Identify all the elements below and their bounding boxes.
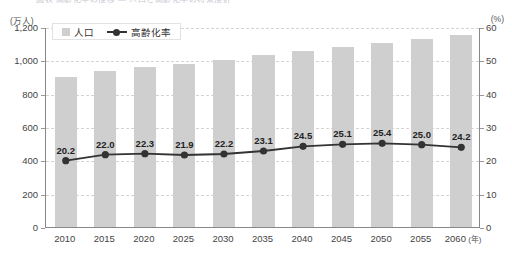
right-axis-tick-label: 50 [486, 55, 508, 66]
chart-page: 図表 高齢化率の推移 — 人口と高齢化率の将来推計 (万人) (%) 20.22… [0, 0, 512, 255]
x-axis-tick-label: 2025 [173, 233, 194, 244]
data-label: 22.0 [96, 139, 115, 150]
left-axis-tick-label: 600 [2, 122, 38, 133]
x-axis-unit: (年) [466, 235, 482, 244]
top-caption-text: 図表 高齢化率の推移 — 人口と高齢化率の将来推計 [36, 0, 231, 4]
right-axis-tick-label: 60 [486, 22, 508, 33]
right-axis-tick-mark [480, 128, 484, 129]
x-axis-tick-label: 2035 [252, 233, 273, 244]
line-marker [102, 151, 109, 158]
left-axis-tick-mark [41, 128, 45, 129]
right-axis-tick-mark [480, 95, 484, 96]
data-label: 24.5 [294, 130, 313, 141]
data-label: 22.3 [136, 138, 155, 149]
line-marker [458, 144, 465, 151]
right-axis-tick-label: 20 [486, 155, 508, 166]
line-marker [220, 150, 227, 157]
data-label: 25.4 [373, 127, 392, 138]
x-axis-tick-label: 2015 [94, 233, 115, 244]
x-axis-tick-label: 2040 [291, 233, 312, 244]
x-axis-tick-label: 2050 [371, 233, 392, 244]
left-axis-tick-label: 1,000 [2, 55, 38, 66]
data-label: 25.0 [412, 129, 431, 140]
left-axis-tick-label: 400 [2, 155, 38, 166]
left-axis-tick-label: 0 [2, 222, 38, 233]
data-label: 21.9 [175, 139, 194, 150]
bar-swatch-icon [62, 28, 70, 36]
right-axis-tick-mark [480, 61, 484, 62]
left-axis-tick-mark [41, 228, 45, 229]
right-axis-tick-label: 10 [486, 189, 508, 200]
right-axis-tick-mark [480, 228, 484, 229]
right-axis-tick-label: 0 [486, 222, 508, 233]
line-swatch-icon [107, 28, 127, 36]
data-label: 23.1 [254, 135, 273, 146]
legend-label-aging-rate: 高齢化率 [131, 25, 171, 39]
line-marker [379, 140, 386, 147]
x-axis-tick-label: 2055 [410, 233, 431, 244]
right-axis-tick-mark [480, 28, 484, 29]
top-caption-strip: 図表 高齢化率の推移 — 人口と高齢化率の将来推計 [0, 0, 512, 9]
data-label: 22.2 [215, 138, 234, 149]
line-marker [141, 150, 148, 157]
legend-item-aging-rate: 高齢化率 [107, 25, 171, 39]
right-axis-tick-label: 30 [486, 122, 508, 133]
x-axis-tick-label: 2020 [133, 233, 154, 244]
x-axis-tick-label: 2010 [54, 233, 75, 244]
legend-item-population: 人口 [62, 25, 94, 39]
left-axis-tick-mark [41, 28, 45, 29]
left-axis-tick-label: 1,200 [2, 22, 38, 33]
plot-area: 20.222.022.321.922.223.124.525.125.425.0… [45, 28, 480, 228]
legend-label-population: 人口 [74, 25, 94, 39]
right-axis-tick-mark [480, 161, 484, 162]
line-marker [299, 143, 306, 150]
x-axis-tick-label: 2045 [331, 233, 352, 244]
right-axis-tick-mark [480, 195, 484, 196]
data-label: 20.2 [57, 145, 76, 156]
chart-legend: 人口 高齢化率 [52, 23, 181, 40]
line-marker [181, 151, 188, 158]
line-marker [418, 141, 425, 148]
left-axis-tick-label: 800 [2, 89, 38, 100]
left-axis-tick-label: 200 [2, 189, 38, 200]
data-label: 25.1 [333, 128, 352, 139]
line-marker [260, 147, 267, 154]
line-marker [339, 141, 346, 148]
left-axis-tick-mark [41, 61, 45, 62]
x-axis-tick-label: 2060 (年) [445, 233, 482, 244]
data-label: 24.2 [452, 131, 471, 142]
line-marker [62, 157, 69, 164]
right-axis-tick-label: 40 [486, 89, 508, 100]
left-axis-tick-mark [41, 95, 45, 96]
left-axis-tick-mark [41, 195, 45, 196]
x-axis-tick-label: 2030 [212, 233, 233, 244]
left-axis-tick-mark [41, 161, 45, 162]
